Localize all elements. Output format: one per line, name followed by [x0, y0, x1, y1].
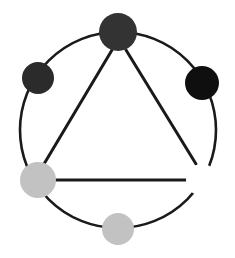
graph-figure [0, 0, 235, 258]
node-top[interactable] [99, 13, 137, 51]
node-upper-left[interactable] [22, 62, 54, 94]
node-bottom[interactable] [102, 213, 134, 245]
node-upper-right[interactable] [185, 66, 219, 100]
node-lower-left[interactable] [20, 162, 56, 198]
graph-canvas [0, 0, 235, 258]
node-lower-right[interactable] [186, 164, 218, 196]
